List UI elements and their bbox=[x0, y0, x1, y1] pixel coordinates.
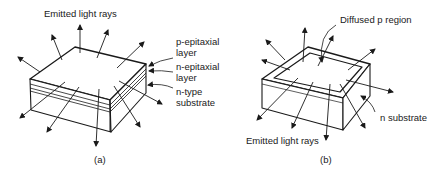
label-n-type: n-type bbox=[176, 86, 202, 97]
caption-a: (a) bbox=[94, 154, 106, 165]
caption-b: (b) bbox=[320, 154, 332, 165]
label-n-type-substrate: substrate bbox=[176, 97, 215, 108]
figure-b-chip bbox=[262, 47, 370, 130]
label-emitted-light-rays-a: Emitted light rays bbox=[44, 8, 117, 19]
label-p-epitaxial: p-epitaxial bbox=[176, 36, 219, 47]
figure-a-leaders bbox=[148, 58, 173, 88]
figure-a-chip bbox=[30, 47, 146, 132]
label-p-epitaxial-layer: layer bbox=[176, 47, 197, 58]
label-n-epitaxial-layer: layer bbox=[176, 72, 197, 83]
led-structure-diagram bbox=[0, 0, 438, 178]
label-n-epitaxial: n-epitaxial bbox=[176, 61, 219, 72]
label-diffused-p-region: Diffused p region bbox=[340, 14, 412, 25]
label-n-substrate: n substrate bbox=[380, 112, 427, 123]
label-emitted-light-rays-b: Emitted light rays bbox=[246, 135, 319, 146]
